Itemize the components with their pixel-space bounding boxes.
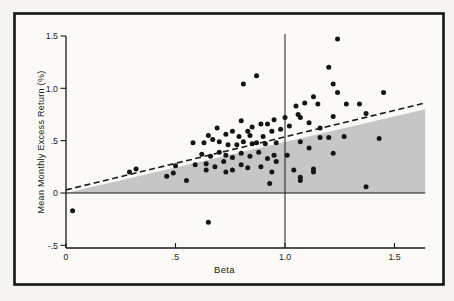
data-point	[258, 164, 263, 169]
data-point	[263, 141, 268, 146]
data-point	[221, 159, 226, 164]
data-point	[223, 170, 228, 175]
data-point	[377, 136, 382, 141]
y-tick-label: 1.0	[46, 84, 58, 94]
data-point	[265, 156, 270, 161]
data-point	[291, 167, 296, 172]
y-tick-label: 1.5	[46, 31, 58, 41]
data-point	[326, 135, 331, 140]
data-point	[342, 134, 347, 139]
data-point	[206, 133, 211, 138]
data-point	[210, 137, 215, 142]
data-point	[381, 90, 386, 95]
y-tick-label: 0	[53, 188, 58, 198]
x-tick-label: .5	[172, 252, 179, 262]
data-point	[285, 153, 290, 158]
data-point	[274, 159, 279, 164]
data-point	[217, 139, 222, 144]
data-point	[184, 178, 189, 183]
data-point	[204, 167, 209, 172]
data-point	[357, 102, 362, 107]
data-point	[265, 121, 270, 126]
data-point	[171, 171, 176, 176]
x-axis-title: Beta	[214, 264, 235, 275]
data-point	[311, 94, 316, 99]
data-point	[247, 154, 252, 159]
data-point	[311, 170, 316, 175]
data-point	[326, 65, 331, 70]
data-point	[239, 162, 244, 167]
data-point	[223, 153, 228, 158]
data-point	[254, 73, 259, 78]
data-point	[331, 151, 336, 156]
data-point	[230, 167, 235, 172]
data-point	[318, 126, 323, 131]
y-tick-label: -.5	[48, 241, 58, 251]
data-point	[298, 178, 303, 183]
data-point	[212, 164, 217, 169]
data-point	[293, 104, 298, 109]
data-point	[201, 140, 206, 145]
data-point	[208, 154, 213, 159]
x-tick-label: 1.0	[279, 252, 291, 262]
data-point	[364, 184, 369, 189]
data-point	[241, 139, 246, 144]
data-point	[287, 123, 292, 128]
data-point	[267, 181, 272, 186]
data-point	[164, 174, 169, 179]
data-point	[237, 134, 242, 139]
data-point	[250, 125, 255, 130]
data-point	[331, 114, 336, 119]
data-point	[191, 140, 196, 145]
data-point	[204, 161, 209, 166]
data-point	[269, 129, 274, 134]
data-point	[261, 134, 266, 139]
data-point	[215, 126, 220, 131]
data-point	[258, 121, 263, 126]
data-point	[199, 152, 204, 157]
data-point	[318, 135, 323, 140]
y-tick-label: .5	[51, 136, 58, 146]
scatter-figure: 1.51.0.50-.50.51.01.5 Beta Mean Monthly …	[0, 0, 454, 301]
data-point	[256, 150, 261, 155]
data-point	[283, 115, 288, 120]
data-point	[298, 115, 303, 120]
y-axis-title: Mean Monthly Excess Return (%)	[36, 49, 46, 235]
data-point	[134, 166, 139, 171]
data-point	[250, 141, 255, 146]
data-point	[315, 102, 320, 107]
beta-return-scatter-chart: 1.51.0.50-.50.51.01.5	[0, 0, 454, 301]
data-point	[278, 127, 283, 132]
data-point	[307, 120, 312, 125]
data-point	[298, 139, 303, 144]
data-point	[364, 111, 369, 116]
data-point	[272, 153, 277, 158]
data-point	[335, 37, 340, 42]
data-point	[307, 145, 312, 150]
data-point	[239, 118, 244, 123]
data-point	[269, 170, 274, 175]
data-point	[245, 165, 250, 170]
x-tick-label: 0	[64, 252, 69, 262]
data-point	[193, 162, 198, 167]
data-point	[217, 150, 222, 155]
data-point	[173, 163, 178, 168]
data-point	[241, 82, 246, 87]
data-point	[239, 151, 244, 156]
data-point	[344, 102, 349, 107]
data-point	[331, 82, 336, 87]
data-point	[274, 140, 279, 145]
data-point	[254, 140, 259, 145]
data-point	[234, 142, 239, 147]
data-point	[223, 132, 228, 137]
x-tick-label: 1.5	[388, 252, 400, 262]
data-point	[272, 117, 277, 122]
data-point	[206, 220, 211, 225]
data-point	[226, 142, 231, 147]
data-point	[247, 133, 252, 138]
data-point	[230, 155, 235, 160]
data-point	[230, 129, 235, 134]
data-point	[70, 208, 75, 213]
data-point	[302, 100, 307, 105]
data-point	[335, 90, 340, 95]
